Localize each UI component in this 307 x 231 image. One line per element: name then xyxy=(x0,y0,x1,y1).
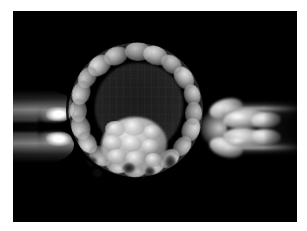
blastocyst xyxy=(61,35,211,185)
biopsy-pipette-fade xyxy=(225,101,297,155)
image-modality: Light microscopy / Hoffman modulation co… xyxy=(0,0,1,1)
micrograph-panel xyxy=(13,11,297,222)
image-frame: Blastocyst held by holding pipette durin… xyxy=(0,0,307,231)
biopsy-pipette xyxy=(201,97,297,159)
zona-pellucida xyxy=(61,35,211,185)
image-title: Blastocyst held by holding pipette durin… xyxy=(0,0,1,1)
